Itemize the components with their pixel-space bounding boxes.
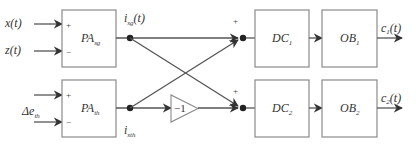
input-delta-e-label: Δeth xyxy=(21,104,40,120)
sum-plus-bottom: + xyxy=(233,86,238,96)
input-z-label: z(t) xyxy=(4,43,21,57)
block-diagram: x(t) z(t) Δeth + − PAsg + − PAth isg(t) … xyxy=(0,0,416,147)
plus-sign: + xyxy=(66,20,71,30)
minus-sign: − xyxy=(66,117,71,127)
input-x-label: x(t) xyxy=(4,16,22,30)
output-c1-label: c1(t) xyxy=(381,21,401,36)
i-sg-wire-cross xyxy=(130,38,238,106)
summing-junction-bottom xyxy=(240,105,246,111)
gain-label: −1 xyxy=(174,102,186,114)
sum-plus-top: + xyxy=(233,16,238,26)
i-sth-wire-cross xyxy=(130,40,238,108)
summing-junction-top xyxy=(240,35,246,41)
i-sth-label: isth xyxy=(124,123,136,139)
minus-sign: − xyxy=(66,47,71,57)
plus-sign: + xyxy=(66,90,71,100)
i-sg-label: isg(t) xyxy=(124,11,145,27)
output-c2-label: c2(t) xyxy=(381,91,401,106)
